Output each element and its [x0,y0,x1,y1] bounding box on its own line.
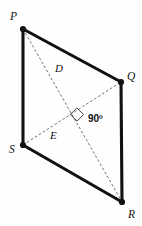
vertex-dot-P [20,26,26,32]
geometry-figure-canvas: P Q R S D E 90º [0,0,142,226]
vertex-dot-Q [118,79,124,85]
vertex-label-P: P [9,10,17,22]
right-angle-marker [70,108,83,121]
diagonal-SQ [23,82,121,145]
vertex-label-R: R [127,208,135,220]
vertex-label-Q: Q [127,70,136,82]
edge-RS [23,145,122,202]
segment-label-D: D [54,62,63,74]
angle-label-90-degrees: 90º [88,113,103,124]
vertex-label-S: S [9,143,15,155]
edge-QR [121,82,122,202]
segment-label-E: E [49,129,57,141]
vertex-dot-S [20,142,26,148]
geometry-diagram: P Q R S D E 90º [0,0,142,226]
vertex-dot-R [119,199,125,205]
